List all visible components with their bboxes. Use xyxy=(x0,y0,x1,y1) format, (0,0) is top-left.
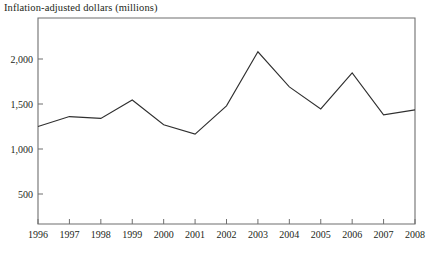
y-tick-label: 500 xyxy=(0,189,33,200)
x-tick-label: 1996 xyxy=(28,229,48,240)
plot-area: 5001,0001,5002,000 199619971998199920002… xyxy=(0,0,428,257)
x-tick-label: 2000 xyxy=(154,229,174,240)
data-series-line xyxy=(38,52,415,134)
line-chart-svg xyxy=(0,0,428,257)
x-tick-label: 1999 xyxy=(122,229,142,240)
y-tick-label: 2,000 xyxy=(0,54,33,65)
x-tick-label: 2002 xyxy=(217,229,237,240)
x-tick-label: 2001 xyxy=(185,229,205,240)
x-tick-label: 2006 xyxy=(342,229,362,240)
x-axis-ticks xyxy=(38,219,415,224)
chart-page: Inflation-adjusted dollars (millions) 50… xyxy=(0,0,428,257)
plot-frame xyxy=(38,18,415,224)
y-tick-label: 1,500 xyxy=(0,99,33,110)
x-tick-label: 2007 xyxy=(374,229,394,240)
data-series-group xyxy=(38,52,415,134)
x-tick-label: 2008 xyxy=(405,229,425,240)
x-tick-label: 1998 xyxy=(91,229,111,240)
y-tick-label: 1,000 xyxy=(0,144,33,155)
x-tick-label: 2003 xyxy=(248,229,268,240)
x-tick-label: 2005 xyxy=(311,229,331,240)
axis-frame xyxy=(38,18,415,224)
x-tick-label: 1997 xyxy=(59,229,79,240)
x-tick-label: 2004 xyxy=(279,229,299,240)
